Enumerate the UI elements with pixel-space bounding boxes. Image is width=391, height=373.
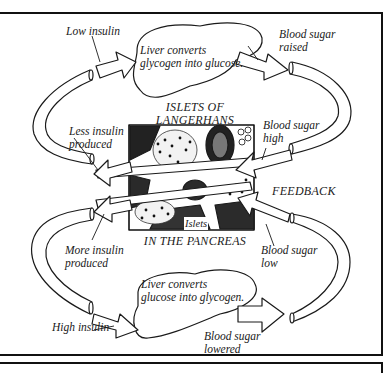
label-islets: Islets: [184, 217, 208, 230]
pancreas-illustration: [129, 125, 254, 230]
arrow-less-insulin: [94, 160, 132, 186]
label-less-insulin-line2: produced: [69, 138, 112, 151]
right-bottom-tube: [292, 214, 350, 322]
label-blood-sugar-high-line2: high: [263, 132, 283, 145]
label-blood-sugar-lowered-line2: lowered: [204, 343, 241, 356]
title-islets-line2: LANGERHANS: [150, 113, 240, 127]
label-less-insulin-line1: Less insulin: [69, 125, 124, 138]
right-top-tube: [290, 62, 351, 154]
tube-end: [90, 208, 94, 220]
label-low-insulin: Low insulin: [66, 25, 120, 38]
tube-end: [290, 213, 294, 223]
liver-bottom-line1: Liver converts: [141, 278, 207, 291]
arrow-to-blood-sugar-raised: [236, 52, 288, 80]
label-blood-sugar-lowered-line1: Blood sugar: [204, 330, 261, 343]
label-blood-sugar-high-line1: Blood sugar: [263, 119, 320, 132]
title-in-the-pancreas: IN THE PANCREAS: [120, 234, 270, 248]
tube-end: [289, 62, 293, 74]
label-high-insulin: High insulin: [52, 321, 109, 334]
liver-top-line2: glycogen into glucose.: [140, 57, 243, 70]
arrow-low-insulin: [96, 52, 136, 78]
tube-end: [89, 302, 93, 314]
liver-top-line1: Liver converts: [140, 44, 206, 57]
title-islets-line1: ISLETS OF: [150, 100, 240, 114]
liver-bottom-line2: glucose into glycogen.: [141, 291, 244, 304]
leader-low-insulin: [92, 36, 100, 62]
label-blood-sugar-low-line2: low: [261, 257, 278, 270]
label-blood-sugar-raised-line1: Blood sugar: [279, 28, 336, 41]
tube-end: [89, 70, 93, 80]
label-blood-sugar-low-line1: Blood sugar: [261, 244, 318, 257]
label-more-insulin-line1: More insulin: [65, 244, 124, 257]
label-blood-sugar-raised-line2: raised: [279, 41, 308, 54]
label-feedback: FEEDBACK: [272, 184, 336, 198]
tube-end: [290, 313, 294, 323]
label-more-insulin-line2: produced: [65, 257, 108, 270]
